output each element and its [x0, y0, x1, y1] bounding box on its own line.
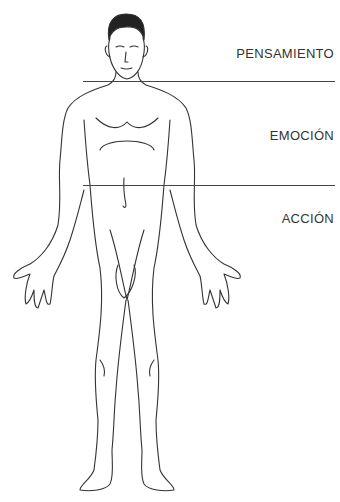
label-emocion: EMOCIÓN: [270, 128, 334, 143]
divider-thought-emotion: [83, 81, 335, 82]
head-outline: [109, 38, 145, 79]
hair-icon: [108, 14, 144, 40]
label-accion: ACCIÓN: [282, 211, 334, 226]
label-pensamiento: PENSAMIENTO: [236, 46, 334, 61]
human-body-figure: [0, 0, 340, 502]
divider-emotion-action: [83, 185, 335, 186]
